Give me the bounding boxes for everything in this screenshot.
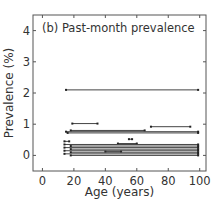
y-axis-label: Prevalence (%) xyxy=(2,48,16,138)
segment-endpoint-marker xyxy=(70,151,72,153)
y-tick-label: 3 xyxy=(23,55,30,69)
segment-endpoint-marker xyxy=(197,89,199,91)
segment-endpoint-marker xyxy=(67,132,69,134)
segment-endpoint-marker xyxy=(70,148,72,150)
segment-endpoint-marker xyxy=(63,150,65,152)
segment-endpoint-marker xyxy=(128,138,130,140)
segment-endpoint-marker xyxy=(144,129,146,131)
segment-endpoint-marker xyxy=(197,154,199,156)
y-tick-label: 4 xyxy=(23,24,30,38)
segment-endpoint-marker xyxy=(71,123,73,125)
y-tick-label: 0 xyxy=(23,148,30,162)
segment-endpoint-marker xyxy=(96,123,98,125)
chart: 020406080100 01234 (b) Past-month preval… xyxy=(0,0,219,206)
x-axis-label: Age (years) xyxy=(85,185,154,199)
segment-endpoint-marker xyxy=(63,147,65,149)
segment-endpoint-marker xyxy=(63,143,65,145)
x-axis: 020406080100 xyxy=(39,15,211,188)
segment-endpoint-marker xyxy=(70,154,72,156)
segment-endpoint-marker xyxy=(63,140,65,142)
y-axis: 01234 xyxy=(23,24,206,163)
x-tick-label: 80 xyxy=(161,174,176,188)
x-tick-label: 20 xyxy=(67,174,82,188)
segment-endpoint-marker xyxy=(197,132,199,134)
x-tick-label: 100 xyxy=(189,174,211,188)
segment-endpoint-marker xyxy=(65,89,67,91)
segment-endpoint-marker xyxy=(189,126,191,128)
segment-endpoint-marker xyxy=(63,153,65,155)
segment-endpoint-marker xyxy=(70,145,72,147)
segment-endpoint-marker xyxy=(150,126,152,128)
segment-endpoint-marker xyxy=(131,138,133,140)
y-tick-label: 2 xyxy=(23,86,30,100)
chart-title: (b) Past-month prevalence xyxy=(42,21,195,35)
y-tick-label: 1 xyxy=(23,117,30,131)
segment-endpoint-marker xyxy=(68,140,70,142)
plot-area xyxy=(63,89,199,157)
x-tick-label: 0 xyxy=(39,174,46,188)
segment-endpoint-marker xyxy=(70,129,72,131)
